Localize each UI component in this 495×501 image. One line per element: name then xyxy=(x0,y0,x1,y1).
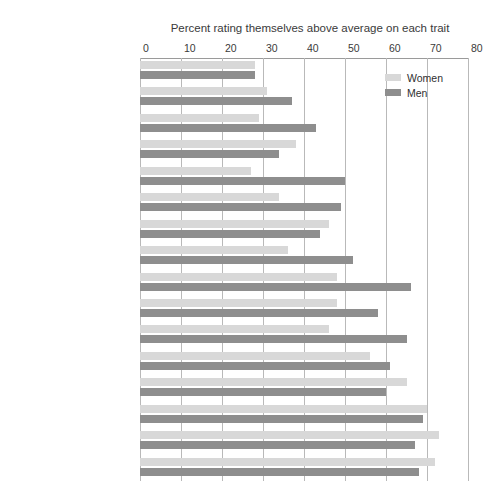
bar-women xyxy=(140,140,296,148)
bar-women xyxy=(140,114,259,122)
chart-row: Leadership ability xyxy=(140,349,468,375)
chart-row: Self-confidence xyxy=(140,270,468,296)
bar-men xyxy=(140,203,341,211)
legend-entry: Men xyxy=(385,85,443,100)
bar-women xyxy=(140,378,407,386)
legend-label: Men xyxy=(407,87,427,99)
chart-row: Risk-taking xyxy=(140,190,468,216)
legend-entry: Women xyxy=(385,70,443,85)
bar-women xyxy=(140,273,337,281)
chart-row: Drive to achieve xyxy=(140,428,468,454)
x-tick-label: 50 xyxy=(345,42,360,54)
gridline-80 xyxy=(468,58,469,481)
bar-women xyxy=(140,61,255,69)
bar-women xyxy=(140,299,337,307)
chart-legend: WomenMen xyxy=(385,70,443,100)
bar-women xyxy=(140,246,288,254)
chart-title: Percent rating themselves above average … xyxy=(140,22,480,34)
x-tick-label: 70 xyxy=(427,42,442,54)
bar-women xyxy=(140,458,435,466)
x-tick-label: 30 xyxy=(263,42,278,54)
chart-row: Computer skills xyxy=(140,164,468,190)
legend-swatch-women xyxy=(385,74,401,81)
bar-men xyxy=(140,283,411,291)
bar-men xyxy=(140,71,255,79)
bar-men xyxy=(140,177,345,185)
bar-men xyxy=(140,230,320,238)
bar-men xyxy=(140,97,292,105)
chart-row: Physical health xyxy=(140,322,468,348)
bar-men xyxy=(140,415,423,423)
chart-row: Academic ability xyxy=(140,402,468,428)
bar-men xyxy=(140,256,353,264)
chart-row: Cooperativeness xyxy=(140,455,468,481)
legend-swatch-men xyxy=(385,89,401,96)
bar-women xyxy=(140,325,329,333)
bar-men xyxy=(140,362,390,370)
legend-label: Women xyxy=(407,72,443,84)
chart-row: Understanding of others xyxy=(140,375,468,401)
x-tick-label: 40 xyxy=(304,42,319,54)
chart-row: Emotional health xyxy=(140,296,468,322)
plot-area: 01020304050607080Artistic abilityPublic … xyxy=(140,58,468,481)
bar-women xyxy=(140,352,370,360)
bar-women xyxy=(140,220,329,228)
x-tick-label: 10 xyxy=(181,42,196,54)
bar-men xyxy=(140,468,419,476)
bar-women xyxy=(140,167,251,175)
bar-men xyxy=(140,309,378,317)
bar-men xyxy=(140,441,415,449)
chart-row: Popularity xyxy=(140,111,468,137)
x-tick-label: 60 xyxy=(386,42,401,54)
x-tick-label: 20 xyxy=(222,42,237,54)
bar-chart: Percent rating themselves above average … xyxy=(0,0,495,501)
x-tick-label: 80 xyxy=(468,42,483,54)
chart-row: Writing ability xyxy=(140,217,468,243)
bar-women xyxy=(140,431,439,439)
bar-men xyxy=(140,124,316,132)
chart-row: Spirituality xyxy=(140,137,468,163)
bar-men xyxy=(140,150,279,158)
bar-men xyxy=(140,388,386,396)
x-tick-label: 0 xyxy=(140,42,149,54)
bar-women xyxy=(140,87,267,95)
chart-row: Mathematical ability xyxy=(140,243,468,269)
bar-men xyxy=(140,335,407,343)
bar-women xyxy=(140,193,279,201)
bar-women xyxy=(140,405,427,413)
